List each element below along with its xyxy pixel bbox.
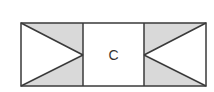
center-cell-label: C: [83, 23, 144, 86]
